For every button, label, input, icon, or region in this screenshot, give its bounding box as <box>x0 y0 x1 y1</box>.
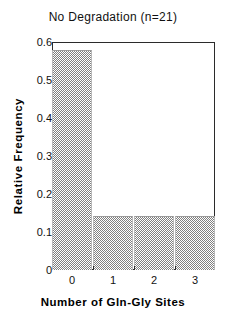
y-tick-label-1: 0.1 <box>8 226 52 238</box>
y-tick-label-0: 0 <box>8 264 52 276</box>
x-tick-label-3: 3 <box>175 274 215 286</box>
y-axis-ticks: 0 0.1 0.2 0.3 0.4 0.5 0.6 <box>0 0 52 330</box>
y-tick-label-2: 0.2 <box>8 188 52 200</box>
bar-series <box>52 42 215 270</box>
x-tick-mark-2 <box>175 266 176 270</box>
y-tick-label-5: 0.5 <box>8 74 52 86</box>
x-tick-label-1: 1 <box>93 274 133 286</box>
bar-category-3 <box>175 216 215 270</box>
y-tick-label-4: 0.4 <box>8 112 52 124</box>
bar-category-1 <box>93 216 133 270</box>
y-tick-label-3: 0.3 <box>8 150 52 162</box>
x-tick-mark-0 <box>93 266 94 270</box>
x-tick-label-0: 0 <box>52 274 92 286</box>
x-tick-label-2: 2 <box>134 274 174 286</box>
bar-category-2 <box>134 216 174 270</box>
y-tick-label-6: 0.6 <box>8 36 52 48</box>
chart-figure: No Degradation (n=21) Relative Frequency… <box>0 0 226 330</box>
bar-category-0 <box>52 50 92 270</box>
x-axis-title: Number of Gln-Gly Sites <box>0 296 226 308</box>
x-tick-mark-1 <box>134 266 135 270</box>
